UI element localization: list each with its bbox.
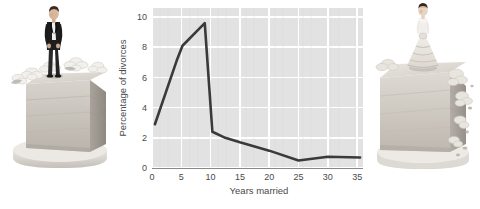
x-tick-label: 5 [179,172,184,182]
y-tick-label: 2 [142,133,147,143]
x-axis-label: Years married [230,185,289,196]
y-tick-label: 6 [142,73,147,83]
x-tick-label: 0 [149,172,154,182]
y-tick-label: 4 [142,103,147,113]
x-tick-label: 35 [352,172,362,182]
divorce-figure: 0246810 05101520253035 Percentage of div… [0,0,480,209]
y-tick-labels: 0246810 [137,12,147,173]
x-tick-label: 30 [323,172,333,182]
y-axis-label: Percentage of divorces [117,39,128,136]
divorce-line-chart: 0246810 05101520253035 Percentage of div… [0,0,370,209]
y-tick-label: 8 [142,42,147,52]
bride-figurine [407,3,439,72]
x-tick-labels: 05101520253035 [149,172,362,182]
y-tick-label: 10 [137,12,147,22]
x-tick-label: 15 [235,172,245,182]
x-tick-label: 20 [264,172,274,182]
bride-cake-slice-photo [366,0,480,190]
x-tick-label: 25 [294,172,304,182]
plot-area-background [152,8,363,168]
y-tick-label: 0 [142,163,147,173]
x-tick-label: 10 [206,172,216,182]
